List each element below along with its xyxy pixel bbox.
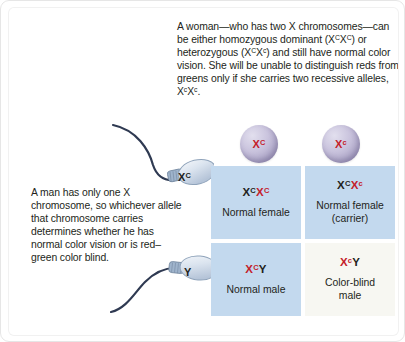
egg-cell-dominant-icon: XC	[240, 125, 278, 163]
egg-cell-recessive-icon: Xc	[322, 125, 360, 163]
punnett-phenotype-top-left: Normal female	[222, 207, 290, 220]
punnett-genotype-bottom-right: XcY	[340, 256, 360, 268]
punnett-phenotype-bottom-left: Normal male	[227, 284, 286, 297]
punnett-cell-bottom-right: XcY Color-blind male	[305, 243, 395, 316]
male-caption-text: A man has only one X chromosome, so whic…	[31, 186, 183, 265]
punnett-genotype-bottom-left: XCY	[245, 263, 266, 275]
egg-dominant-allele-label: XC	[252, 138, 265, 150]
female-caption-text: A woman—who has two X chromosomes—can be…	[177, 20, 398, 99]
punnett-genotype-top-right: XCXc	[337, 179, 363, 191]
egg-recessive-allele-label: Xc	[335, 138, 347, 150]
punnett-genotype-top-left: XCXC	[242, 186, 269, 198]
punnett-cell-top-right: XCXc Normal female (carrier)	[305, 166, 395, 239]
punnett-phenotype-top-right: Normal female (carrier)	[316, 200, 384, 225]
punnett-cell-top-left: XCXC Normal female	[211, 166, 301, 239]
figure-frame: A woman—who has two X chromosomes—can be…	[0, 0, 405, 342]
sperm-x-allele-label: XC	[178, 171, 191, 183]
punnett-phenotype-bottom-right: Color-blind male	[325, 277, 375, 302]
sperm-y-allele-label: Y	[184, 266, 192, 278]
punnett-cell-bottom-left: XCY Normal male	[211, 243, 301, 316]
figure-card: A woman—who has two X chromosomes—can be…	[9, 8, 398, 335]
punnett-square: XCXC Normal female XCXc Normal female (c…	[211, 166, 395, 316]
